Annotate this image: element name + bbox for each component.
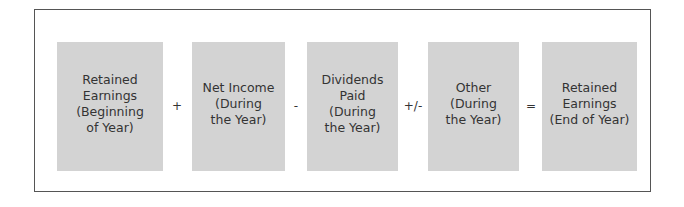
operator-plus: + xyxy=(168,98,186,114)
term-box-retained-earnings-end: Retained Earnings (End of Year) xyxy=(542,42,637,171)
term-label: Retained Earnings (End of Year) xyxy=(550,80,630,128)
operator-equals: = xyxy=(522,98,540,114)
term-label: Dividends Paid (During the Year) xyxy=(322,72,384,136)
term-box-other: Other (During the Year) xyxy=(428,42,519,171)
term-box-retained-earnings-beginning: Retained Earnings (Beginning of Year) xyxy=(57,42,163,171)
term-box-net-income: Net Income (During the Year) xyxy=(192,42,285,171)
term-label: Other (During the Year) xyxy=(446,80,502,128)
term-label: Net Income (During the Year) xyxy=(203,80,275,128)
term-label: Retained Earnings (Beginning of Year) xyxy=(76,72,144,136)
operator-minus: - xyxy=(287,98,305,114)
operator-plus-minus: +/- xyxy=(400,98,426,114)
term-box-dividends-paid: Dividends Paid (During the Year) xyxy=(307,42,398,171)
